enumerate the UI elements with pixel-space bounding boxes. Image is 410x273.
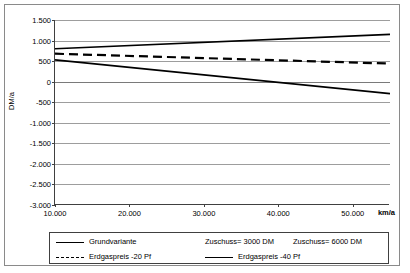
legend-item-zuschuss-6000: Zuschuss= 6000 DM bbox=[293, 234, 362, 249]
legend-label: Erdgaspreis -20 Pf bbox=[89, 252, 151, 261]
legend-label: Erdgaspreis -40 Pf bbox=[238, 252, 300, 261]
y-tick-label: -1.500 bbox=[11, 139, 51, 148]
legend-item-erdgaspreis-20: Erdgaspreis -20 Pf bbox=[56, 249, 151, 264]
legend-item-zuschuss-3000: Zuschuss= 3000 DM bbox=[205, 234, 274, 249]
y-tick-label: 0 bbox=[11, 77, 51, 86]
legend-label: Grundvariante bbox=[89, 237, 137, 246]
x-axis-unit-label: km/a bbox=[378, 208, 395, 217]
x-tick-label: 30.000 bbox=[192, 209, 215, 218]
x-tick-label: 40.000 bbox=[267, 209, 290, 218]
legend-item-erdgaspreis-40: Erdgaspreis -40 Pf bbox=[205, 249, 300, 264]
x-tick-label: 50.000 bbox=[341, 209, 364, 218]
legend-label: Zuschuss= 3000 DM bbox=[205, 237, 274, 246]
plot-area-wrapper: DM/a km/a 1.5001.0005000-500-1.000-1.500… bbox=[5, 5, 401, 230]
y-tick-label: -1.000 bbox=[11, 118, 51, 127]
chart-frame: DM/a km/a 1.5001.0005000-500-1.000-1.500… bbox=[4, 4, 400, 266]
x-tick-label: 10.000 bbox=[44, 209, 67, 218]
chart-legend: Grundvariante Zuschuss= 3000 DM Zuschuss… bbox=[49, 232, 389, 264]
legend-label: Zuschuss= 6000 DM bbox=[293, 237, 362, 246]
plot-area: 1.5001.0005000-500-1.000-1.500-2.000-2.5… bbox=[54, 20, 389, 205]
y-tick-label: 1.000 bbox=[11, 36, 51, 45]
data-series-line bbox=[55, 34, 390, 48]
legend-row-1: Grundvariante Zuschuss= 3000 DM Zuschuss… bbox=[50, 234, 388, 249]
y-tick-label: -2.000 bbox=[11, 159, 51, 168]
data-lines bbox=[55, 20, 390, 205]
legend-item-grundvariante: Grundvariante bbox=[56, 234, 137, 249]
data-series-line bbox=[55, 54, 390, 64]
legend-row-2: Erdgaspreis -20 Pf Erdgaspreis -40 Pf bbox=[50, 249, 388, 264]
y-tick-label: -500 bbox=[11, 98, 51, 107]
legend-line-solid-icon bbox=[205, 252, 233, 262]
y-tick-label: 500 bbox=[11, 57, 51, 66]
data-series-line bbox=[55, 60, 390, 94]
y-tick-label: 1.500 bbox=[11, 16, 51, 25]
legend-line-solid-icon bbox=[56, 237, 84, 247]
x-tick-label: 20.000 bbox=[118, 209, 141, 218]
legend-line-dashed-icon bbox=[56, 252, 84, 262]
y-tick-label: -2.500 bbox=[11, 180, 51, 189]
